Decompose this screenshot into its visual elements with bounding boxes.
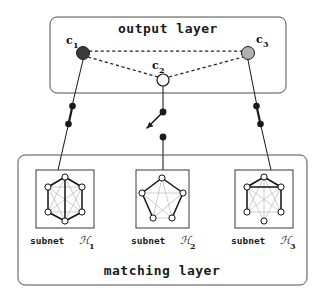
subnet-1-vertex xyxy=(45,184,51,190)
subnet-2-vertex xyxy=(180,190,186,196)
switch-middle[interactable] xyxy=(147,109,166,141)
subnet-2-vertex xyxy=(159,175,165,181)
neural-network-diagram: output layer xyxy=(0,0,325,299)
subnet-3-label-group: subnet ℋ 3 xyxy=(231,234,296,251)
connection-line-c3-to-subnet3 xyxy=(248,60,257,106)
dashed-edge-c1-c2 xyxy=(88,57,158,77)
node-c2-circle xyxy=(157,74,169,86)
subnet-panel-1[interactable] xyxy=(36,170,94,228)
subnet-1-label-prefix: subnet xyxy=(30,235,64,246)
output-layer-dashed-edges xyxy=(88,51,243,77)
subnet-panel-3[interactable] xyxy=(235,170,293,228)
subnet-3-label-index: 3 xyxy=(290,241,296,251)
subnet-1-vertex xyxy=(79,184,85,190)
switch-right-terminal-bottom-dot xyxy=(257,121,264,128)
node-c1-label: c xyxy=(66,34,73,47)
switch-left[interactable] xyxy=(65,103,76,128)
subnet-3-vertex xyxy=(261,174,267,180)
subnet-2-label-index: 2 xyxy=(190,241,196,251)
output-node-c1[interactable]: c 1 xyxy=(66,34,90,60)
subnet-2-vertex xyxy=(139,190,145,196)
subnet-1-vertex xyxy=(62,174,68,180)
subnet-2-label-group: subnet ℋ 2 xyxy=(131,234,196,251)
node-c2-label: c xyxy=(152,59,159,72)
output-node-c2[interactable]: c 2 xyxy=(152,59,169,86)
subnet-3-vertex xyxy=(278,209,284,215)
subnet-3-vertex xyxy=(278,184,284,190)
output-node-c3[interactable]: c 3 xyxy=(242,33,270,60)
output-layer-title: output layer xyxy=(118,21,218,36)
subnet-1-label-index: 1 xyxy=(89,241,95,251)
node-c3-circle xyxy=(242,47,255,60)
connection-line-c1-to-subnet1 xyxy=(72,60,83,106)
subnet-1-label-group: subnet ℋ 1 xyxy=(30,234,95,251)
subnet-2-label-prefix: subnet xyxy=(131,235,165,246)
subnet-3-vertex xyxy=(244,184,250,190)
matching-layer-title: matching layer xyxy=(104,263,221,278)
node-c3-subscript: 3 xyxy=(263,39,269,49)
switch-middle-terminal-top-dot xyxy=(160,109,167,116)
switch-left-terminal-bottom-dot xyxy=(65,121,72,128)
dashed-edge-c2-c3 xyxy=(169,57,243,77)
subnet-2-vertex xyxy=(150,215,156,221)
subnet-3-label-prefix: subnet xyxy=(231,235,265,246)
subnet-2-vertex xyxy=(169,215,175,221)
connection-line-subnet1-lower xyxy=(58,124,69,170)
switch-right-terminal-top-dot xyxy=(253,103,260,110)
switch-left-terminal-top-dot xyxy=(69,103,76,110)
node-c3-label: c xyxy=(256,33,263,46)
subnet-3-vertex xyxy=(261,218,267,224)
connection-line-subnet3-lower xyxy=(261,124,272,170)
subnet-1-vertex xyxy=(45,209,51,215)
switch-middle-terminal-bottom-dot xyxy=(160,134,167,141)
subnet-3-vertex xyxy=(244,209,250,215)
switch-right[interactable] xyxy=(253,103,264,128)
subnet-1-vertex xyxy=(62,218,68,224)
subnet-1-vertex xyxy=(79,209,85,215)
node-c1-subscript: 1 xyxy=(73,40,79,50)
subnet-panel-2[interactable] xyxy=(136,170,189,228)
node-c2-subscript: 2 xyxy=(159,65,165,75)
